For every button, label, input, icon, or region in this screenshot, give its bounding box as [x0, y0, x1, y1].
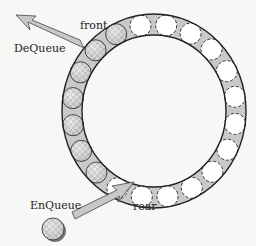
- dequeue-label: DeQueue: [14, 42, 66, 55]
- incoming-element: [42, 218, 66, 242]
- queue-slot-empty: [225, 113, 246, 134]
- front-label: front: [80, 19, 108, 32]
- queue-slot-empty: [130, 15, 151, 36]
- circular-queue-diagram: front DeQueue EnQueue rear: [0, 0, 256, 246]
- queue-slot-filled: [62, 88, 83, 109]
- queue-slot-empty: [156, 15, 177, 36]
- queue-slot-filled: [63, 115, 84, 136]
- rear-label: rear: [133, 200, 157, 213]
- enqueue-label: EnQueue: [30, 199, 81, 212]
- queue-slot-empty: [224, 86, 245, 107]
- queue-slot-empty: [157, 186, 178, 207]
